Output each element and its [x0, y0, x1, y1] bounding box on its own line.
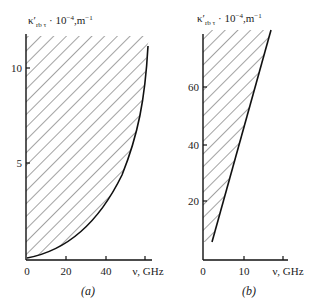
panel-b: 60 40 20 0 10 ν, GHz κ′rb τ · 10−4,m−1 (…	[188, 12, 304, 298]
panel-b-xtick-10: 10	[239, 265, 251, 277]
panel-a-caption: (a)	[81, 284, 95, 298]
panel-a-xlabel: ν, GHz	[132, 265, 163, 277]
panel-b-ytick-40: 40	[188, 139, 200, 151]
panel-b-hatched-region	[203, 30, 271, 242]
panel-b-xtick-0: 0	[200, 265, 206, 277]
panel-b-ytick-60: 60	[188, 81, 200, 93]
panel-a-xtick-40: 40	[101, 265, 113, 277]
panel-a-ytick-5: 5	[17, 157, 23, 169]
panel-a-ylabel: κ′rb τ · 10−4,m−1	[28, 14, 93, 29]
panel-b-ylabel: κ′rb τ · 10−4,m−1	[197, 12, 262, 27]
panel-b-caption: (b)	[242, 284, 256, 298]
figure: 10 5 0 20 40 ν, GHz κ′rb τ · 10−4,m−1 (a…	[0, 0, 315, 308]
panel-b-xlabel: ν, GHz	[272, 265, 303, 277]
panel-a-xtick-20: 20	[61, 265, 73, 277]
panel-a: 10 5 0 20 40 ν, GHz κ′rb τ · 10−4,m−1 (a…	[11, 14, 164, 298]
panel-b-ytick-20: 20	[188, 195, 200, 207]
panel-a-ytick-10: 10	[11, 62, 23, 74]
panel-a-xtick-0: 0	[24, 265, 30, 277]
